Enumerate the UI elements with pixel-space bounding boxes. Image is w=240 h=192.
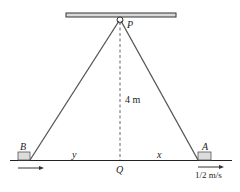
label-q: Q xyxy=(116,165,123,175)
label-y: y xyxy=(72,150,76,160)
label-b: B xyxy=(20,142,26,152)
label-speed: 1/2 m/s xyxy=(195,171,222,180)
block-b xyxy=(18,152,30,160)
label-x: x xyxy=(157,150,161,160)
rope-right xyxy=(121,21,198,160)
label-a: A xyxy=(202,142,208,152)
block-a xyxy=(198,152,211,160)
rope-left xyxy=(30,21,119,160)
label-height: 4 m xyxy=(125,95,140,105)
label-p: P xyxy=(127,20,133,30)
arrow-b-head-icon xyxy=(39,166,44,170)
arrow-a-head-icon xyxy=(219,165,224,169)
ceiling-beam xyxy=(66,13,176,17)
